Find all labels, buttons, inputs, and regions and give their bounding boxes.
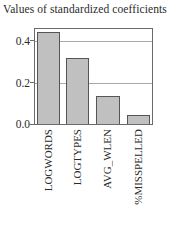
ytick-label-0-2: 0.2 bbox=[6, 77, 30, 89]
bar-avg-wlen bbox=[96, 96, 120, 124]
ytick-mark-0-0 bbox=[30, 124, 34, 125]
bar-misspelled bbox=[127, 115, 150, 124]
xtick-label-logwords: LOGWORDS bbox=[42, 129, 54, 191]
xtick-label-logtypes: LOGTYPES bbox=[71, 129, 83, 185]
xtick-label-avg-wlen: AVG_WLEN bbox=[101, 129, 113, 189]
ytick-mark-0-4 bbox=[30, 40, 34, 41]
ytick-label-0-0: 0.0 bbox=[6, 118, 30, 130]
ytick-label-0-4: 0.4 bbox=[6, 35, 30, 47]
bar-logwords bbox=[37, 32, 60, 124]
chart-title: Values of standardized coefficients bbox=[3, 3, 167, 15]
ytick-mark-0-2 bbox=[30, 82, 34, 83]
plot-area bbox=[34, 28, 153, 125]
xtick-label-misspelled: %MISSPELLED bbox=[132, 129, 144, 205]
bar-logtypes bbox=[66, 58, 89, 124]
